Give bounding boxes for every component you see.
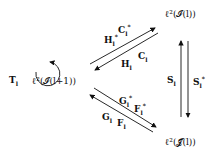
label-C-star: Cl* xyxy=(118,24,131,37)
self-loop-label: Tl xyxy=(9,76,18,87)
node-bottom-right: ℓ²(𝓙(l)) xyxy=(165,138,196,147)
label-S: Sl xyxy=(167,76,176,87)
node-top-right: ℓ²(𝓘(l)) xyxy=(165,10,196,19)
label-F: Fl xyxy=(117,119,126,130)
label-F-star: Fl* xyxy=(134,103,146,116)
label-H-star: Hl* xyxy=(104,34,118,47)
node-center: ℓ²(𝓘(l+1)) xyxy=(32,77,76,86)
label-G-star: Gl* xyxy=(119,95,132,108)
label-S-star: Sl* xyxy=(193,76,205,89)
label-H: Hl xyxy=(121,60,132,71)
label-G: Gl xyxy=(102,113,112,124)
label-C: Cl xyxy=(138,52,147,63)
